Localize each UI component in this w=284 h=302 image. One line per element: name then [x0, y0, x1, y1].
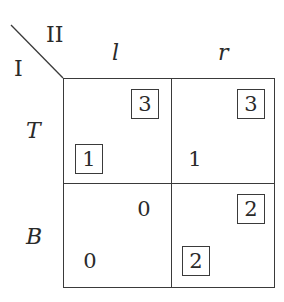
cell-T-r-col-payoff: 3 — [237, 89, 265, 119]
cell-T-r-row-payoff: 1 — [181, 144, 209, 174]
cell-T-l-col-payoff: 3 — [131, 89, 159, 119]
cell-B-l-col-payoff: 0 — [130, 194, 158, 224]
row-strategy-T: T — [26, 120, 41, 142]
column-strategy-r: r — [218, 42, 229, 64]
payoff-matrix: 3 1 3 1 0 0 2 2 — [63, 78, 275, 288]
cell-B-r-row-payoff: 2 — [182, 246, 210, 276]
column-player-label: II — [46, 24, 63, 46]
row-strategy-B: B — [26, 226, 42, 248]
row-player-label: I — [14, 58, 23, 80]
row-divider — [64, 183, 274, 184]
cell-T-l-row-payoff: 1 — [75, 144, 103, 174]
cell-B-l-row-payoff: 0 — [76, 246, 104, 276]
column-strategy-l: l — [112, 42, 119, 64]
cell-B-r-col-payoff: 2 — [237, 194, 265, 224]
